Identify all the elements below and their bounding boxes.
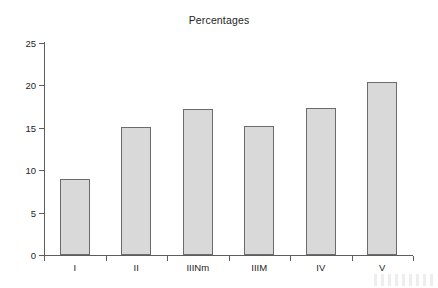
x-axis-category-label: IIINm [168, 263, 228, 273]
bar [60, 179, 90, 255]
bar [306, 108, 336, 255]
x-axis-tick [290, 256, 291, 261]
y-axis-tick-label: 15 [0, 124, 36, 134]
bar [121, 127, 151, 255]
bar-chart-figure: Percentages 0510152025 IIIIIINmIIIMIVV [0, 0, 438, 288]
bar [183, 109, 213, 255]
bar [244, 126, 274, 255]
x-axis-tick [167, 256, 168, 261]
y-axis-tick-label-wrap: 5 [0, 213, 36, 214]
x-axis-category-label: IIIM [229, 263, 289, 273]
y-axis-tick-label: 0 [0, 251, 36, 261]
y-axis-tick-label-wrap: 10 [0, 170, 36, 171]
x-axis-category-label: II [106, 263, 166, 273]
y-axis-tick [39, 85, 44, 86]
x-axis-category-label: IV [291, 263, 351, 273]
y-axis-tick-label: 5 [0, 209, 36, 219]
scan-artifact [374, 274, 436, 286]
y-axis-tick-label: 10 [0, 166, 36, 176]
y-axis-tick-label-wrap: 15 [0, 128, 36, 129]
x-axis-tick [44, 256, 45, 261]
y-axis-tick-label-wrap: 25 [0, 43, 36, 44]
y-axis-tick-label-wrap: 0 [0, 255, 36, 256]
x-axis-tick [413, 256, 414, 261]
y-axis-tick [39, 170, 44, 171]
y-axis-tick-label: 25 [0, 39, 36, 49]
y-axis-tick [39, 43, 44, 44]
y-axis-tick-label: 20 [0, 81, 36, 91]
y-axis-line [44, 42, 45, 256]
x-axis-tick [352, 256, 353, 261]
x-axis-category-label: I [45, 263, 105, 273]
y-axis-tick-label-wrap: 20 [0, 85, 36, 86]
x-axis-category-label: V [352, 263, 412, 273]
y-axis-tick [39, 213, 44, 214]
bar [367, 82, 397, 255]
chart-title: Percentages [0, 14, 438, 26]
x-axis-tick [229, 256, 230, 261]
x-axis-tick [106, 256, 107, 261]
y-axis-tick [39, 128, 44, 129]
